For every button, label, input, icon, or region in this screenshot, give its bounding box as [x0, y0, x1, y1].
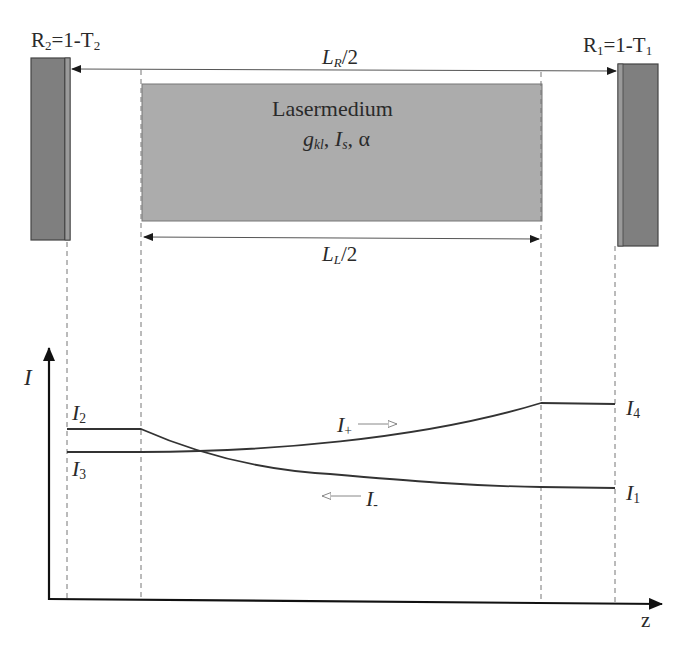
x-axis-label: z — [641, 610, 650, 631]
mirror-left-label: R2=1-T2 — [31, 30, 100, 51]
resonator-length-arrow — [72, 69, 616, 71]
label-i2: I2 — [72, 402, 86, 424]
y-axis-label: I — [24, 366, 32, 389]
x-axis — [48, 599, 662, 604]
mirror-right-label: R1=1-T1 — [583, 35, 652, 56]
label-i3: I3 — [72, 458, 86, 480]
curve-i-minus — [67, 429, 615, 488]
resonator-length-label: LR/2 — [322, 47, 358, 68]
mirror-left — [31, 58, 70, 240]
mirror-right — [618, 64, 658, 246]
medium-length-label: LL/2 — [322, 244, 357, 265]
label-i-minus: I- — [366, 488, 378, 510]
label-i1: I1 — [626, 482, 640, 504]
medium-length-arrow — [144, 237, 539, 239]
label-i4: I4 — [626, 397, 640, 419]
medium-title: Lasermedium — [272, 98, 393, 120]
label-i-plus: I+ — [337, 414, 352, 436]
medium-parameters: gkl, Is, α — [303, 128, 370, 150]
